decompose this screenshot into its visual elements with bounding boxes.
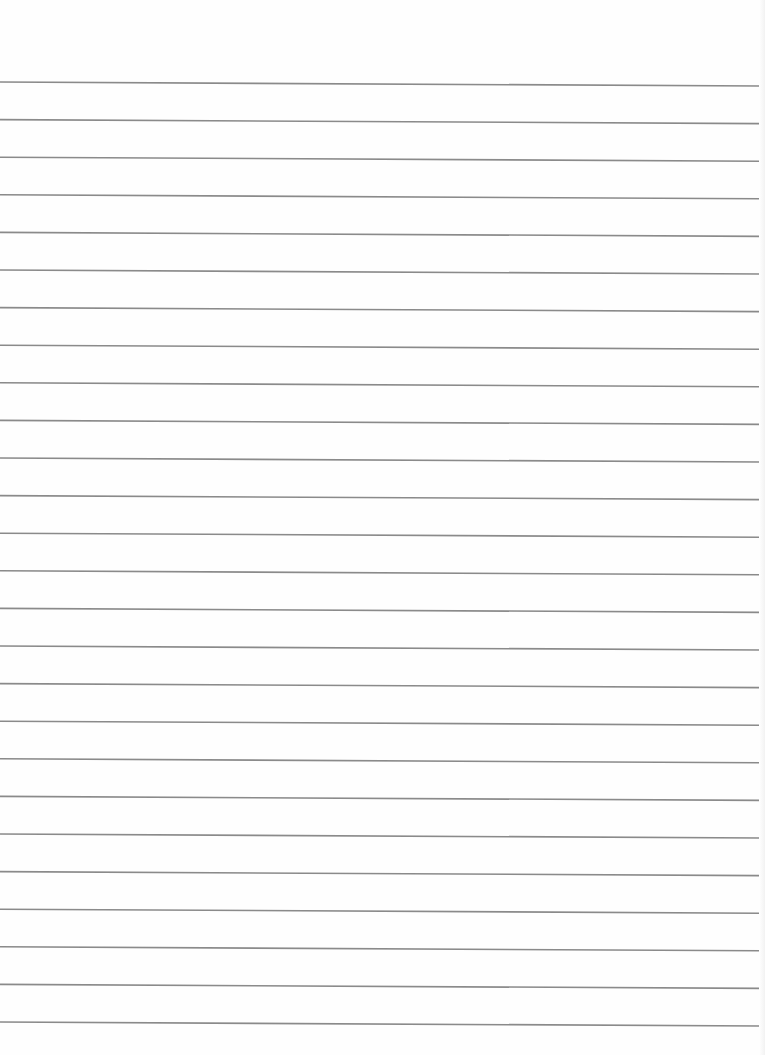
ruled-line [0, 571, 760, 575]
ruled-line [0, 308, 760, 312]
ruled-line [0, 157, 760, 161]
ruled-line [0, 232, 760, 236]
ruled-line [0, 82, 760, 86]
ruled-line [0, 796, 760, 800]
ruled-line [0, 646, 760, 650]
ruled-line [0, 909, 760, 913]
ruled-line [0, 270, 760, 274]
paper-edge-shadow [759, 0, 765, 1055]
ruled-line [0, 420, 760, 424]
ruled-line [0, 759, 760, 763]
ruled-lines [0, 0, 765, 1055]
ruled-line [0, 684, 760, 688]
ruled-line [0, 533, 760, 537]
ruled-line [0, 458, 760, 462]
ruled-line [0, 383, 760, 387]
ruled-line [0, 195, 760, 199]
ruled-line [0, 984, 760, 988]
ruled-line [0, 120, 760, 124]
ruled-line [0, 947, 760, 951]
ruled-line [0, 496, 760, 500]
ruled-line [0, 1022, 760, 1026]
ruled-line [0, 345, 760, 349]
ruled-line [0, 608, 760, 612]
ruled-line [0, 872, 760, 876]
ruled-line [0, 721, 760, 725]
ruled-line [0, 834, 760, 838]
lined-paper-sheet [0, 0, 765, 1055]
